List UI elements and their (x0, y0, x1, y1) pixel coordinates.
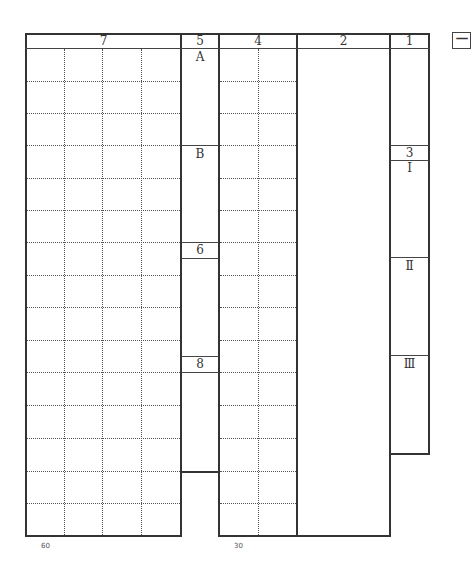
label-roman-3: Ⅲ (390, 357, 429, 371)
side-mark-box: 一 (452, 32, 471, 49)
side-mark-text: 一 (453, 33, 470, 47)
label-roman-1: Ⅰ (390, 161, 429, 175)
grid-col-line (102, 49, 103, 535)
label-A: A (180, 50, 220, 64)
divider-roman-2 (390, 257, 429, 258)
divider-B (181, 145, 219, 146)
label-3: 3 (390, 146, 429, 160)
grid-col-line (64, 49, 65, 535)
divider-6-bottom (181, 258, 219, 259)
footer-count-middle: 30 (234, 542, 243, 550)
divider-8-bottom (181, 372, 219, 373)
grid-col-line (258, 49, 259, 535)
header-1: 1 (390, 34, 429, 48)
header-2: 2 (297, 34, 390, 48)
header-divider (25, 48, 430, 49)
grid-col-line (141, 49, 142, 535)
divider-roman-3 (390, 355, 429, 356)
footer-count-left: 60 (41, 542, 50, 550)
header-4: 4 (219, 34, 297, 48)
header-5: 5 (180, 34, 220, 48)
label-6: 6 (180, 243, 220, 257)
label-B: B (180, 147, 220, 161)
section-2-column (296, 33, 391, 537)
label-8: 8 (180, 357, 220, 371)
section-1-column (389, 33, 430, 455)
section-7-grid (25, 33, 182, 537)
header-7: 7 (25, 34, 182, 48)
label-roman-2: Ⅱ (390, 259, 429, 273)
